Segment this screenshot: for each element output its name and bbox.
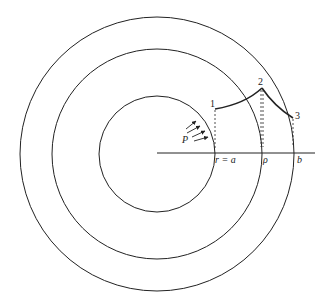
diagram-figure: 1 2 3 P r = a ρ b <box>0 0 330 301</box>
inner-circle <box>99 96 215 212</box>
point-3-label: 3 <box>295 110 300 121</box>
pressure-label: P <box>181 134 188 145</box>
b-label: b <box>297 154 302 165</box>
outer-circle <box>20 17 294 291</box>
point-1-label: 1 <box>210 98 215 109</box>
stress-curve-1-2 <box>215 88 262 109</box>
pressure-arrow-1 <box>186 121 196 129</box>
rho-label: ρ <box>262 154 268 165</box>
diagram-canvas: 1 2 3 P r = a ρ b <box>0 0 330 301</box>
point-2-label: 2 <box>258 76 263 87</box>
pressure-arrow-4 <box>194 137 208 141</box>
pressure-arrow-3 <box>192 131 205 137</box>
r-equals-a-label: r = a <box>215 154 236 165</box>
